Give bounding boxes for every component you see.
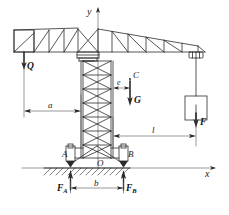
dimension-b-label: b (94, 178, 99, 188)
pin-foot-a (66, 161, 75, 168)
crane-diagram-canvas: y x O A B C Q G F FA FB a e l b (0, 0, 229, 215)
slewing-platform (77, 52, 99, 61)
counter-jib-truss (14, 28, 98, 52)
support-a-label: A (61, 149, 68, 159)
dimension-a-label: a (48, 100, 53, 110)
force-q-label: Q (27, 61, 34, 71)
jib-center-panel (78, 29, 98, 52)
dimension-e-label: e (117, 78, 121, 87)
dimension-a (24, 66, 81, 148)
support-b-label: B (128, 149, 134, 159)
main-jib-truss (98, 29, 205, 52)
origin-label: O (97, 158, 104, 168)
x-axis-label: x (204, 168, 210, 179)
reaction-fa-label: FA (56, 183, 68, 194)
trolley (189, 52, 203, 58)
force-g-label: G (134, 95, 141, 105)
dimension-l-label: l (152, 125, 155, 135)
ground-hatching (44, 168, 130, 175)
pin-foot-b (119, 161, 128, 168)
dimension-e (113, 79, 130, 92)
reaction-fb-label: FB (125, 183, 137, 194)
lattice-mast (81, 61, 113, 158)
y-axis-label: y (86, 6, 92, 17)
crane-free-body-diagram: y x O A B C Q G F FA FB a e l b (0, 0, 229, 215)
force-f-label: F (199, 117, 207, 127)
point-c-label: C (133, 70, 140, 80)
